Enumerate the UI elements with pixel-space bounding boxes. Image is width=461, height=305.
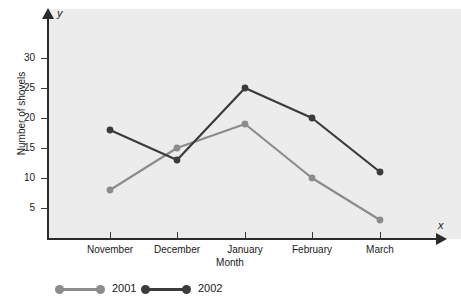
series-2001 bbox=[107, 121, 384, 224]
data-series-layer bbox=[0, 0, 461, 305]
data-point bbox=[107, 127, 114, 134]
data-point bbox=[377, 169, 384, 176]
data-point bbox=[309, 175, 316, 182]
series-line bbox=[110, 88, 380, 172]
data-point bbox=[107, 187, 114, 194]
data-point bbox=[242, 121, 249, 128]
data-point bbox=[174, 157, 181, 164]
series-line bbox=[110, 124, 380, 220]
data-point bbox=[377, 217, 384, 224]
legend-marker-dot bbox=[96, 285, 105, 294]
data-point bbox=[174, 145, 181, 152]
legend-label: 2002 bbox=[198, 282, 222, 294]
legend-marker-dot bbox=[182, 285, 191, 294]
legend-label: 2001 bbox=[112, 282, 136, 294]
legend-marker-dot bbox=[55, 285, 64, 294]
data-point bbox=[309, 115, 316, 122]
chart-figure: y x 51015202530 NovemberDecemberJanuaryF… bbox=[0, 0, 461, 305]
data-point bbox=[242, 85, 249, 92]
series-2002 bbox=[107, 85, 384, 176]
legend-marker-dot bbox=[141, 285, 150, 294]
